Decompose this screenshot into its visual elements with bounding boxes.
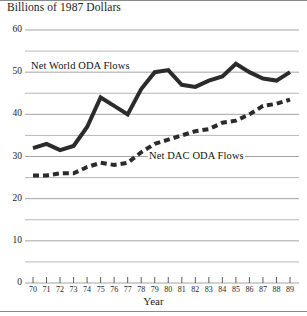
y-tick-label: 30 xyxy=(2,151,22,161)
y-tick-label: 50 xyxy=(2,66,22,76)
x-tick-label: 89 xyxy=(282,285,298,294)
x-axis-ticks-group xyxy=(33,277,290,283)
y-tick-label: 40 xyxy=(2,108,22,118)
x-axis-title: Year xyxy=(0,295,307,307)
y-tick-label: 10 xyxy=(2,235,22,245)
y-tick-label: 0 xyxy=(2,277,22,287)
series-line-net-dac-oda-flows xyxy=(33,100,290,176)
y-tick-label: 60 xyxy=(2,24,22,34)
chart-container: Billions of 1987 Dollars 0102030405060 7… xyxy=(0,0,307,316)
y-tick-label: 20 xyxy=(2,193,22,203)
series-line-net-world-oda-flows xyxy=(33,64,290,150)
series-label-net-world-oda-flows: Net World ODA Flows xyxy=(30,60,131,71)
series-label-net-dac-oda-flows: Net DAC ODA Flows xyxy=(148,150,245,161)
